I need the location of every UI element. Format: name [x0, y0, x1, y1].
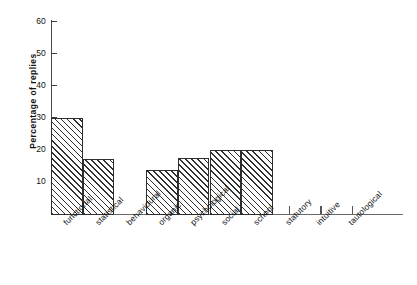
y-tick-label-30: 30	[22, 112, 46, 122]
x-label-statutory: statutory	[283, 196, 314, 227]
y-tick-label-60: 60	[22, 16, 46, 26]
y-tick-label-10: 10	[22, 176, 46, 186]
y-axis-title: Percentage of replies	[28, 21, 38, 181]
y-tick-60	[51, 21, 57, 22]
y-tick-50	[51, 53, 57, 54]
bar-functional	[51, 118, 83, 215]
y-tick-label-20: 20	[22, 144, 46, 154]
y-tick-label-50: 50	[22, 48, 46, 58]
bar-chart: Percentage of replies 102030405060 funct…	[0, 0, 417, 285]
y-tick-40	[51, 85, 57, 86]
y-tick-label-40: 40	[22, 80, 46, 90]
